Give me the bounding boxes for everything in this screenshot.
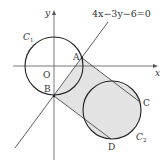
y-axis-label: y xyxy=(44,8,51,18)
x-axis-label: x xyxy=(155,68,160,78)
point-a-label: A xyxy=(72,52,80,62)
y-axis-arrow-icon xyxy=(52,10,56,15)
equation-label: 4x−3y−6=0 xyxy=(92,8,151,19)
point-a xyxy=(81,57,83,59)
geometry-diagram: 4x−3y−6=0 y x O C1 C2 A B C D xyxy=(0,0,167,165)
point-d-label: D xyxy=(108,142,115,152)
circle-c1-label-sub: 1 xyxy=(30,37,34,43)
point-b-label: B xyxy=(44,84,51,94)
circle-c2-label-sub: 2 xyxy=(143,137,147,143)
circle-c1-label: C1 xyxy=(23,32,33,43)
point-b xyxy=(53,95,55,97)
circle-c2-label: C2 xyxy=(136,132,146,143)
origin-label: O xyxy=(43,70,50,80)
point-c-label: C xyxy=(143,98,150,108)
